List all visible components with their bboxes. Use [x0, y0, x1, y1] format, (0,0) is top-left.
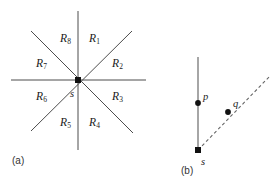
dashed-ray-s-to-q-line [198, 77, 269, 150]
panel-a-source-marker [75, 77, 81, 83]
diagonal-line-nw-se [31, 31, 133, 133]
panel-b-source-marker [195, 147, 201, 153]
panel-b-lines [198, 57, 269, 150]
figure-vector-canvas [0, 0, 279, 184]
figure-root: R1 R2 R3 R4 R5 R6 R7 R8 s (a) p q s (b) [0, 0, 279, 184]
panel-b-point-p-marker [195, 100, 201, 106]
panel-b-point-q-marker [225, 109, 231, 115]
